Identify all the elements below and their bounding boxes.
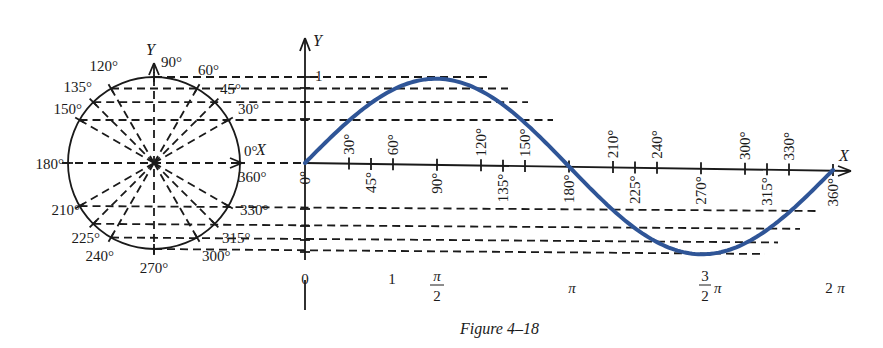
angle-label: 150° bbox=[54, 101, 83, 117]
upper-degree-label: 120° bbox=[473, 128, 489, 157]
radian-label: π bbox=[568, 280, 576, 296]
radian-label: 32π bbox=[699, 268, 722, 304]
svg-text:π: π bbox=[433, 268, 441, 284]
angle-label: 210° bbox=[52, 202, 81, 218]
angle-label: 30° bbox=[238, 101, 259, 117]
svg-text:2: 2 bbox=[433, 288, 441, 304]
svg-text:3: 3 bbox=[701, 268, 709, 284]
angle-label: 0° bbox=[244, 143, 258, 159]
graph-x-label: X bbox=[838, 147, 850, 164]
angle-label: 120° bbox=[90, 58, 119, 74]
svg-text:π: π bbox=[837, 280, 845, 296]
graph-x-axis bbox=[305, 163, 851, 171]
radian-label: π2 bbox=[430, 268, 444, 304]
lower-degree-label: 135° bbox=[495, 174, 511, 203]
svg-text:2: 2 bbox=[825, 280, 833, 296]
y-tick-one-label: 1 bbox=[315, 68, 323, 84]
svg-text:0: 0 bbox=[301, 271, 309, 287]
angle-label: 360° bbox=[238, 169, 267, 185]
upper-degree-label: 300° bbox=[737, 131, 753, 160]
lower-degree-label: 360° bbox=[825, 178, 841, 207]
angle-label: 135° bbox=[64, 79, 93, 95]
circle-y-label: Y bbox=[146, 41, 157, 58]
angle-label: 225° bbox=[72, 230, 101, 246]
lower-degree-label: 180° bbox=[561, 175, 577, 204]
angle-label: 270° bbox=[140, 260, 169, 276]
angle-label: 240° bbox=[86, 248, 115, 264]
upper-degree-label: 210° bbox=[605, 130, 621, 159]
figure-caption: Figure 4–18 bbox=[459, 320, 539, 338]
svg-text:1: 1 bbox=[388, 271, 396, 287]
lower-degree-label: 270° bbox=[693, 176, 709, 205]
lower-degree-label: 315° bbox=[759, 177, 775, 206]
radian-label: 0 bbox=[301, 271, 309, 287]
lower-degree-label: 45° bbox=[363, 172, 379, 193]
projection-line bbox=[93, 224, 800, 229]
radian-label: 2π bbox=[825, 280, 845, 296]
upper-degree-label: 60° bbox=[385, 134, 401, 155]
projection-line bbox=[80, 206, 818, 211]
lower-degree-label: 0° bbox=[297, 171, 313, 185]
angle-label: 60° bbox=[198, 62, 219, 78]
sine-unit-circle-figure: YX0°30°45°60°90°120°135°150°180°210°225°… bbox=[0, 0, 883, 348]
graph-y-label: Y bbox=[313, 32, 324, 49]
upper-degree-label: 240° bbox=[649, 130, 665, 159]
lower-degree-label: 225° bbox=[627, 175, 643, 204]
upper-degree-label: 330° bbox=[781, 132, 797, 161]
radian-label: 1 bbox=[388, 271, 396, 287]
svg-text:π: π bbox=[568, 280, 576, 296]
upper-degree-label: 150° bbox=[517, 128, 533, 157]
angle-label: 330° bbox=[240, 202, 269, 218]
projection-line bbox=[111, 237, 778, 242]
svg-text:π: π bbox=[714, 280, 722, 296]
svg-text:2: 2 bbox=[701, 288, 709, 304]
angle-label: 180° bbox=[36, 156, 65, 172]
lower-degree-label: 90° bbox=[429, 173, 445, 194]
upper-degree-label: 30° bbox=[341, 134, 357, 155]
angle-label: 90° bbox=[161, 54, 182, 70]
